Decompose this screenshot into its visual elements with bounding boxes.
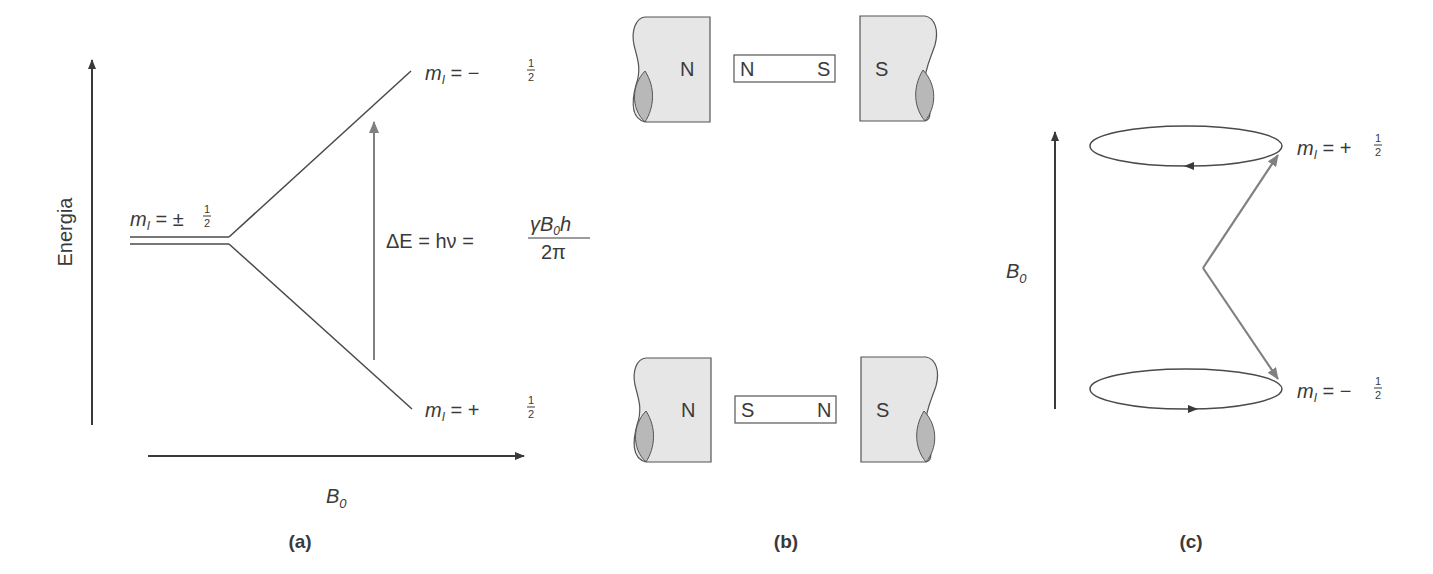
spin-vector-up (1203, 155, 1278, 268)
lower-level-line (229, 244, 412, 409)
frac-den: 2 (528, 408, 534, 420)
pole-label-left: N (681, 399, 695, 421)
upper-state-label: mI = + (1297, 137, 1352, 162)
b0-label: B0 (1006, 260, 1027, 286)
precession-orbit-lower (1090, 369, 1282, 409)
transition-equation: ΔE = hν = (386, 230, 474, 252)
frac-num: 1 (1375, 375, 1381, 387)
frac-den: 2 (1375, 146, 1381, 158)
upper-level-label: mI = − (425, 62, 480, 87)
orbit-direction-arrow-lower (1188, 405, 1198, 413)
frac-num: 1 (528, 57, 534, 69)
precession-orbit-upper (1090, 126, 1282, 166)
lower-level-label: mI = + (425, 399, 480, 424)
frac-den: 2 (528, 71, 534, 83)
pole-label-right: S (876, 399, 889, 421)
frac-num: 1 (204, 203, 210, 215)
panel-b-magnet-orientations: N N S S N S N S (b) (633, 16, 937, 552)
spin-vector-down (1203, 268, 1278, 379)
bar-label-right: N (817, 399, 831, 421)
caption-a: (a) (288, 531, 311, 552)
caption-c: (c) (1179, 531, 1202, 552)
degenerate-level-label: mI = ± (130, 208, 184, 233)
magnet-pair-bottom: N S N S (634, 357, 937, 462)
magnet-pair-top: N N S S (633, 16, 936, 122)
frac-den: 2 (204, 217, 210, 229)
orbit-direction-arrow-upper (1184, 162, 1194, 170)
pole-label-left: N (680, 58, 694, 80)
frac-num: 1 (528, 394, 534, 406)
pole-label-right: S (875, 58, 888, 80)
bar-label-right: S (817, 58, 830, 80)
nmr-figure: Energia B0 mI = ± 1 2 mI = − 1 2 mI = + … (0, 0, 1433, 574)
bar-label-left: N (740, 58, 754, 80)
energy-axis-label: Energia (54, 197, 76, 267)
transition-numerator: γB0h (530, 213, 571, 238)
transition-denominator: 2π (541, 241, 566, 263)
caption-b: (b) (774, 531, 798, 552)
bar-label-left: S (741, 399, 754, 421)
panel-c-precession: B0 mI = + 1 2 mI = − 1 2 (c) (1006, 126, 1382, 552)
panel-a-energy-diagram: Energia B0 mI = ± 1 2 mI = − 1 2 mI = + … (54, 57, 590, 552)
frac-num: 1 (1375, 132, 1381, 144)
frac-den: 2 (1375, 389, 1381, 401)
field-axis-label: B0 (326, 485, 347, 511)
upper-level-line (229, 71, 411, 237)
lower-state-label: mI = − (1297, 380, 1352, 405)
